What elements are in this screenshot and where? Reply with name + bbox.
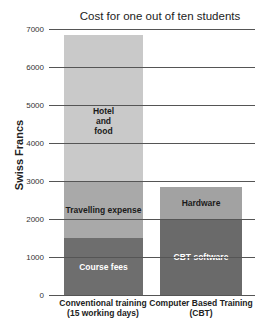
bar-segment: Hardware: [160, 187, 242, 219]
stacked-bar: Course feesTravelling expenseHotelandfoo…: [64, 0, 143, 295]
gridline: [49, 143, 255, 144]
gridline: [49, 105, 255, 106]
x-label-conventional: Conventional training (15 working days): [59, 298, 146, 318]
gridline: [49, 219, 255, 220]
x-label-cbt: Computer Based Training (CBT): [149, 298, 252, 318]
gridline: [49, 181, 255, 182]
y-tick-label: 6000: [0, 63, 44, 72]
y-tick-label: 1000: [0, 253, 44, 262]
bar-segment: Travelling expense: [64, 181, 143, 238]
gridline: [49, 67, 255, 68]
bar-segment: Course fees: [64, 238, 143, 295]
segment-label: Course fees: [79, 262, 128, 272]
stacked-bar: CBT softwareHardware: [160, 0, 242, 295]
bar-segment: Hotelandfood: [64, 35, 143, 181]
segment-label: Hotelandfood: [93, 106, 114, 136]
y-tick-label: 0: [0, 291, 44, 300]
y-tick-label: 2000: [0, 215, 44, 224]
segment-label: Travelling expense: [65, 205, 141, 215]
y-tick-label: 7000: [0, 25, 44, 34]
gridline: [49, 29, 255, 30]
gridline: [49, 257, 255, 258]
gridline: [49, 295, 255, 296]
segment-label: Hardware: [182, 198, 221, 208]
y-tick-label: 5000: [0, 101, 44, 110]
y-tick-label: 4000: [0, 139, 44, 148]
y-tick-label: 3000: [0, 177, 44, 186]
